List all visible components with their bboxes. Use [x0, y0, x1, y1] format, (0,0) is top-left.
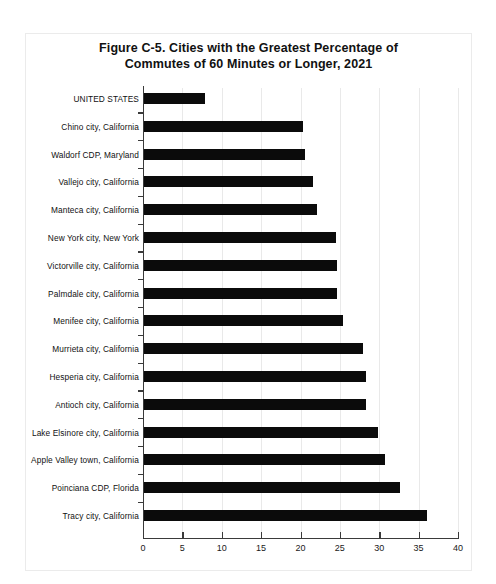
y-axis-tick	[138, 363, 144, 364]
bar	[143, 399, 366, 410]
x-axis-tick-label: 25	[325, 543, 355, 553]
x-axis-tick	[379, 532, 380, 539]
x-axis-tick-label: 5	[167, 543, 197, 553]
category-label: Poinciana CDP, Florida	[0, 483, 139, 493]
bar	[143, 454, 385, 465]
x-axis-tick-label: 20	[286, 543, 316, 553]
category-label: Tracy city, California	[0, 511, 139, 521]
y-axis-tick	[138, 224, 144, 225]
x-axis-tick-label: 15	[246, 543, 276, 553]
y-axis-tick	[138, 502, 144, 503]
x-axis-tick	[458, 532, 459, 539]
category-label: Victorville city, California	[0, 261, 139, 271]
y-axis-tick	[138, 418, 144, 419]
y-axis-tick	[138, 196, 144, 197]
gridline	[379, 88, 380, 538]
x-axis-tick-label: 35	[404, 543, 434, 553]
y-axis-tick	[138, 168, 144, 169]
category-label: Antioch city, California	[0, 400, 139, 410]
y-axis-tick	[138, 279, 144, 280]
x-axis-tick-label: 0	[128, 543, 158, 553]
x-axis-tick-label: 10	[207, 543, 237, 553]
x-axis-tick	[222, 532, 223, 539]
gridline	[419, 88, 420, 538]
y-axis-tick	[138, 112, 144, 113]
category-label: Murrieta city, California	[0, 344, 139, 354]
y-axis-tick	[138, 390, 144, 391]
x-axis-tick	[143, 532, 144, 539]
category-label: Lake Elsinore city, California	[0, 428, 139, 438]
y-axis-tick	[138, 251, 144, 252]
y-axis-tick	[138, 307, 144, 308]
x-axis-tick	[182, 532, 183, 539]
bar-chart-plot-area: UNITED STATESChino city, CaliforniaWaldo…	[0, 0, 496, 584]
x-axis-tick	[340, 532, 341, 539]
bar	[143, 121, 303, 132]
bar	[143, 371, 366, 382]
gridline	[340, 88, 341, 538]
category-label: Menifee city, California	[0, 316, 139, 326]
category-label: Hesperia city, California	[0, 372, 139, 382]
y-axis-tick	[138, 335, 144, 336]
bar	[143, 288, 337, 299]
x-axis-tick-label: 40	[443, 543, 473, 553]
y-axis-tick	[138, 446, 144, 447]
bar	[143, 315, 343, 326]
category-label: New York city, New York	[0, 233, 139, 243]
category-label: Manteca city, California	[0, 205, 139, 215]
y-axis-tick	[138, 140, 144, 141]
x-axis-tick	[261, 532, 262, 539]
bar	[143, 427, 378, 438]
category-label: Waldorf CDP, Maryland	[0, 150, 139, 160]
category-label: Palmdale city, California	[0, 289, 139, 299]
x-axis-tick	[419, 532, 420, 539]
bar	[143, 343, 363, 354]
bar	[143, 232, 336, 243]
bar	[143, 176, 313, 187]
bar	[143, 149, 305, 160]
category-label: UNITED STATES	[0, 94, 139, 104]
x-axis-tick-label: 30	[364, 543, 394, 553]
x-axis-tick	[301, 532, 302, 539]
bar	[143, 510, 427, 521]
gridline	[458, 88, 459, 538]
bar	[143, 260, 337, 271]
category-label: Chino city, California	[0, 122, 139, 132]
y-axis-line	[143, 86, 144, 538]
category-label: Vallejo city, California	[0, 177, 139, 187]
bar	[143, 93, 205, 104]
bar	[143, 204, 317, 215]
y-axis-tick	[138, 474, 144, 475]
bar	[143, 482, 400, 493]
category-label: Apple Valley town, California	[0, 455, 139, 465]
